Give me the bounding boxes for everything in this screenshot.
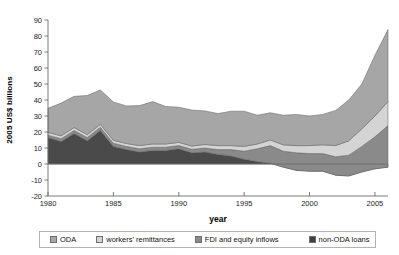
y-tick-label: 20 (34, 128, 42, 137)
y-tick-label: 60 (34, 64, 42, 73)
legend-item[interactable]: FDI and equity inflows (195, 236, 279, 244)
chart-legend: ODAworkers' remittancesFDI and equity in… (39, 231, 376, 248)
legend-swatch-icon (96, 236, 103, 243)
x-tick-label: 1980 (40, 199, 57, 208)
x-tick-label: 1995 (236, 199, 253, 208)
y-tick-label: 80 (34, 32, 42, 41)
legend-item[interactable]: ODA (50, 236, 76, 244)
x-axis-title: year (209, 214, 227, 224)
y-tick-label: 30 (34, 112, 42, 121)
legend-item[interactable]: workers' remittances (96, 236, 175, 244)
stacked-areas (48, 30, 388, 176)
y-axis-ticks: 9080706050403020100-10-20 (31, 16, 48, 201)
legend-label: non-ODA loans (319, 236, 370, 244)
legend-label: FDI and equity inflows (205, 236, 279, 244)
area-chart-svg: 2005 US$ billions 9080706050403020100-10… (0, 0, 399, 255)
legend-label: ODA (60, 236, 76, 244)
legend-item[interactable]: non-ODA loans (309, 236, 370, 244)
x-tick-label: 1985 (105, 199, 122, 208)
x-tick-label: 2000 (301, 199, 318, 208)
y-tick-label: 50 (34, 80, 42, 89)
legend-swatch-icon (309, 236, 316, 243)
y-tick-label: 40 (34, 96, 42, 105)
y-tick-label: 10 (34, 144, 42, 153)
y-tick-label: -10 (31, 176, 42, 185)
y-tick-label: 90 (34, 16, 42, 25)
y-tick-label: 70 (34, 48, 42, 57)
y-axis-title: 2005 US$ billions (5, 76, 14, 144)
legend-swatch-icon (50, 236, 57, 243)
legend-swatch-icon (195, 236, 202, 243)
x-axis-ticks: 198019851990199520002005 (40, 192, 388, 208)
x-tick-label: 2005 (367, 199, 384, 208)
y-axis-title-text: 2005 US$ billions (5, 76, 14, 144)
y-tick-label: 0 (38, 160, 42, 169)
x-tick-label: 1990 (170, 199, 187, 208)
chart-container: 2005 US$ billions 9080706050403020100-10… (0, 0, 399, 255)
legend-label: workers' remittances (106, 236, 175, 244)
